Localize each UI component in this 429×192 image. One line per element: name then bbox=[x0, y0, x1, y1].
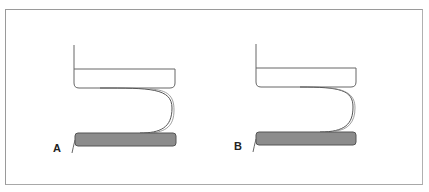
panel-b bbox=[253, 44, 356, 152]
panel-b-upper-plate bbox=[256, 68, 356, 87]
panel-a-curve-inner bbox=[150, 89, 174, 133]
panel-b-curve-inner bbox=[330, 88, 355, 131]
panel-a-curve bbox=[100, 88, 172, 133]
panel-b-label: B bbox=[234, 140, 242, 152]
panel-a-lower-bar bbox=[75, 133, 176, 146]
panel-a bbox=[72, 45, 176, 153]
panel-b-tail-line bbox=[253, 139, 256, 152]
panel-b-lower-bar bbox=[256, 132, 356, 145]
panel-a-upper-plate bbox=[74, 69, 175, 88]
panel-b-curve bbox=[300, 87, 353, 132]
panel-a-label: A bbox=[53, 142, 61, 154]
diagram-canvas bbox=[0, 0, 429, 192]
panel-a-tail-line bbox=[72, 140, 75, 153]
